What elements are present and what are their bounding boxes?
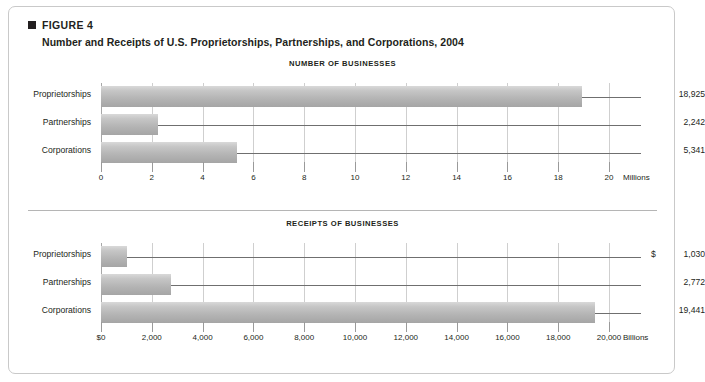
axis-tick-label: 8,000: [294, 333, 314, 342]
figure-card: FIGURE 4 Number and Receipts of U.S. Pro…: [8, 6, 675, 374]
chart-panel-receipts-of-businesses: RECEIPTS OF BUSINESSES Proprietorships$1…: [9, 219, 676, 369]
chart-title-number: NUMBER OF BUSINESSES: [9, 59, 676, 68]
axis-tick-label: 10: [351, 173, 360, 182]
axis-tick-label: 14,000: [444, 333, 468, 342]
tick-mark-top: [457, 322, 458, 327]
figure-title: Number and Receipts of U.S. Proprietorsh…: [42, 36, 464, 48]
bar-row: Proprietorships$1,030: [101, 243, 609, 271]
bar: [101, 114, 158, 135]
plot-area-receipts: Proprietorships$1,030Partnerships2,772Co…: [101, 243, 609, 327]
bar-rows-number: Proprietorships18,925Partnerships2,242Co…: [101, 83, 609, 167]
tick-mark-top: [558, 162, 559, 167]
tick-mark-top: [406, 162, 407, 167]
value-label: 19,441: [661, 305, 705, 315]
tick-mark-top: [101, 162, 102, 167]
bar: [101, 274, 171, 295]
tick-mark: [457, 327, 458, 332]
leader-line: [595, 313, 641, 314]
axis-tick-label: 2: [150, 173, 154, 182]
category-label: Partnerships: [43, 117, 91, 127]
bar: [101, 142, 237, 163]
tick-mark: [304, 167, 305, 172]
value-label: 2,242: [661, 117, 705, 127]
bar-rows-receipts: Proprietorships$1,030Partnerships2,772Co…: [101, 243, 609, 327]
tick-mark-top: [203, 162, 204, 167]
tick-mark-top: [558, 322, 559, 327]
axis-tick-label: 18,000: [546, 333, 570, 342]
axis-tick-label: 16,000: [495, 333, 519, 342]
bar-row: Proprietorships18,925: [101, 83, 609, 111]
tick-mark-top: [355, 162, 356, 167]
category-label: Corporations: [42, 305, 91, 315]
value-label: 18,925: [661, 89, 705, 99]
tick-mark: [253, 167, 254, 172]
category-label: Proprietorships: [33, 249, 91, 259]
axis-tick-label: 20,000: [597, 333, 621, 342]
tick-mark: [558, 327, 559, 332]
tick-mark: [507, 327, 508, 332]
tick-mark: [203, 167, 204, 172]
leader-line: [582, 97, 641, 98]
bar: [101, 302, 595, 323]
figure-header: FIGURE 4 Number and Receipts of U.S. Pro…: [28, 19, 464, 48]
leader-line: [158, 125, 641, 126]
tick-mark-top: [609, 322, 610, 327]
axis-unit-label: Billions: [623, 333, 648, 342]
tick-mark: [152, 167, 153, 172]
tick-mark-top: [152, 322, 153, 327]
axis-tick-label: 14: [452, 173, 461, 182]
chart-title-receipts: RECEIPTS OF BUSINESSES: [9, 219, 676, 228]
figure-kicker: FIGURE 4: [28, 19, 464, 31]
tick-mark-top: [355, 322, 356, 327]
tick-mark-top: [152, 162, 153, 167]
value-currency-symbol: $: [651, 249, 656, 259]
axis-tick-label: 6: [251, 173, 255, 182]
category-label: Partnerships: [43, 277, 91, 287]
tick-mark: [558, 167, 559, 172]
tick-mark-top: [253, 322, 254, 327]
value-label: 2,772: [661, 277, 705, 287]
bar: [101, 86, 582, 107]
tick-mark: [507, 167, 508, 172]
tick-mark: [203, 327, 204, 332]
tick-mark-top: [406, 322, 407, 327]
tick-mark-top: [507, 322, 508, 327]
axis-tick-label: $0: [97, 333, 106, 342]
axis-tick-label: 10,000: [343, 333, 367, 342]
tick-mark-top: [304, 162, 305, 167]
square-marker-icon: [28, 21, 36, 29]
tick-mark: [609, 167, 610, 172]
tick-mark: [253, 327, 254, 332]
tick-labels-receipts: $02,0004,0006,0008,00010,00012,00014,000…: [41, 333, 679, 347]
category-label: Corporations: [42, 145, 91, 155]
tick-labels-number: 02468101214161820Millions: [41, 173, 679, 187]
tick-mark: [609, 327, 610, 332]
axis-tick-label: 4: [200, 173, 204, 182]
leader-line: [127, 257, 641, 258]
axis-tick-label: 12,000: [394, 333, 418, 342]
leader-line: [237, 153, 641, 154]
value-label: 5,341: [661, 145, 705, 155]
axis-tick-label: 0: [99, 173, 103, 182]
axis-unit-label: Millions: [623, 173, 650, 182]
axis-tick-label: 12: [401, 173, 410, 182]
value-label: 1,030: [661, 249, 705, 259]
axis-tick-label: 6,000: [243, 333, 263, 342]
bar-row: Partnerships2,772: [101, 271, 609, 299]
tick-mark: [304, 327, 305, 332]
axis-tick-label: 20: [605, 173, 614, 182]
tick-mark: [406, 167, 407, 172]
plot-area-number: Proprietorships18,925Partnerships2,242Co…: [101, 83, 609, 167]
tick-mark: [101, 327, 102, 332]
tick-mark-top: [457, 162, 458, 167]
category-label: Proprietorships: [33, 89, 91, 99]
tick-mark-top: [609, 162, 610, 167]
tick-mark-top: [304, 322, 305, 327]
chart-panel-number-of-businesses: NUMBER OF BUSINESSES Proprietorships18,9…: [9, 59, 676, 214]
tick-mark: [355, 327, 356, 332]
bar: [101, 246, 127, 267]
leader-line: [171, 285, 641, 286]
axis-tick-label: 4,000: [193, 333, 213, 342]
tick-mark: [406, 327, 407, 332]
axis-tick-label: 2,000: [142, 333, 162, 342]
